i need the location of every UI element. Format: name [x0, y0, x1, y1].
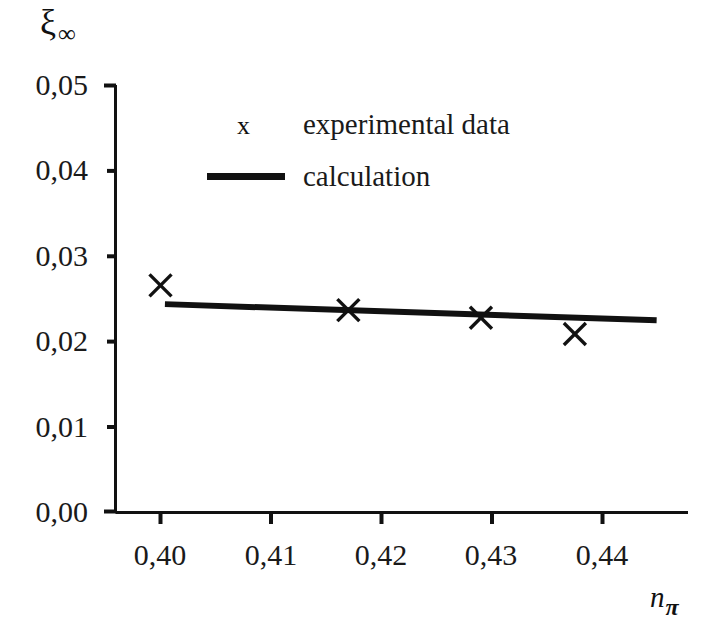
plot-area: [0, 0, 716, 635]
data-series-layer: [150, 274, 657, 345]
data-point-marker: [564, 323, 586, 345]
data-point-marker: [150, 274, 172, 296]
chart-figure: ξ∞ nπ 0,05 0,04 0,03 0,02 0,01 0,00 0,40…: [0, 0, 716, 635]
calculation-line: [165, 304, 657, 320]
